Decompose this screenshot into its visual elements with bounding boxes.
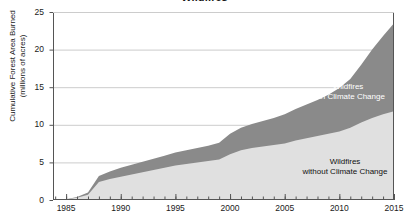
y-tick-label: 0 (22, 195, 44, 205)
y-tick-label: 5 (22, 157, 44, 167)
x-tick-label: 2015 (377, 203, 409, 213)
y-tick-label: 20 (22, 44, 44, 54)
x-tick-label: 2005 (268, 203, 302, 213)
chart-container: Wildfires Cumulative Forest Area Burned … (0, 0, 409, 220)
y-tick-label: 25 (22, 7, 44, 17)
y-tick-label: 10 (22, 119, 44, 129)
x-tick-label: 1985 (49, 203, 83, 213)
annotation-without-line1: Wildfires (330, 157, 361, 166)
annotation-without-climate-change: Wildfires without Climate Change (290, 157, 400, 177)
annotation-with-line2: with Climate Change (311, 92, 385, 101)
plot-area (0, 0, 409, 220)
y-axis-ticks (50, 13, 54, 201)
annotation-without-line2: without Climate Change (303, 167, 388, 176)
x-tick-label: 1995 (158, 203, 192, 213)
x-tick-label: 2000 (213, 203, 247, 213)
annotation-with-line1: Wildfires (333, 82, 364, 91)
y-tick-label: 15 (22, 82, 44, 92)
annotation-with-climate-change: Wildfires with Climate Change (298, 82, 398, 102)
x-tick-label: 2010 (322, 203, 356, 213)
x-tick-label: 1990 (104, 203, 138, 213)
